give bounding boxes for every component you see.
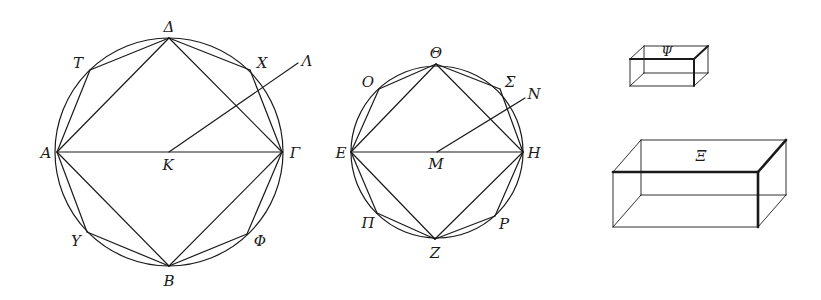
- point-label: Ψ: [661, 45, 672, 58]
- octagon-edge: [57, 152, 87, 232]
- octagon-edge: [250, 70, 282, 152]
- point-label: Μ: [428, 157, 443, 172]
- point-label: Υ: [71, 234, 81, 249]
- point-label: Ν: [527, 87, 540, 102]
- octagon-edge: [169, 234, 247, 266]
- octagon-edge: [495, 152, 523, 216]
- point-label: Τ: [73, 56, 83, 71]
- solid-2-edge: [758, 195, 786, 227]
- octagon-edge: [169, 38, 250, 70]
- octagon-edge: [57, 70, 90, 152]
- point-label: Χ: [257, 56, 268, 71]
- point-label: Ζ: [430, 246, 440, 261]
- octagon-edge: [90, 38, 169, 70]
- point-label: Σ: [505, 75, 516, 90]
- solid-1-edge: [630, 73, 644, 86]
- solid-1-edge: [630, 46, 644, 59]
- point-label: Δ: [164, 20, 175, 35]
- point-label: Ρ: [499, 217, 509, 232]
- point-label: Η: [527, 146, 540, 161]
- solid-2-edge: [758, 140, 786, 172]
- point-label: Λ: [302, 54, 313, 69]
- radius-ray: [437, 98, 525, 152]
- octagon-edge: [436, 64, 500, 89]
- octagon-edge: [351, 152, 377, 213]
- octagon-edge: [379, 64, 436, 89]
- octagon-edge: [87, 232, 169, 266]
- point-label: Φ: [254, 234, 266, 249]
- solid-1-edge: [694, 46, 708, 59]
- geometry-figure: ΑΔΓΒΤΧΦΥΚΛΕΘΗΖΟΣΡΠΜΝΨΞ: [0, 0, 821, 300]
- octagon-edge: [377, 213, 435, 239]
- solid-1-edge: [694, 73, 708, 86]
- point-label: Π: [361, 216, 374, 231]
- point-label: Ξ: [696, 149, 707, 164]
- octagon-edge: [351, 89, 379, 152]
- point-label: Κ: [162, 158, 173, 173]
- point-label: Β: [163, 274, 174, 289]
- point-label: Θ: [430, 46, 442, 61]
- solid-2-edge: [613, 195, 641, 227]
- point-label: Γ: [290, 146, 300, 161]
- octagon-edge: [435, 216, 495, 239]
- octagon-edge: [247, 152, 282, 234]
- radius-ray: [169, 63, 298, 152]
- point-label: Α: [41, 146, 52, 161]
- square-edge: [435, 152, 523, 239]
- octagon-edge: [500, 89, 523, 152]
- point-label: Ε: [336, 146, 347, 161]
- point-label: Ο: [362, 75, 374, 90]
- solid-2-edge: [613, 140, 641, 172]
